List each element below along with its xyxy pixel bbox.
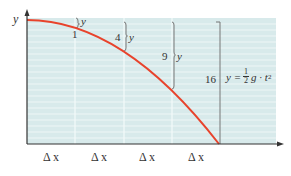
x-interval-3: Δ x — [139, 150, 155, 165]
formula-denominator: 2 — [244, 77, 248, 85]
drop-1-value: 1 — [72, 28, 78, 40]
y-axis-label: y — [13, 12, 18, 27]
formula-fraction: 1 2 — [243, 68, 249, 85]
drop-4-value: 4 — [115, 31, 121, 43]
drop-9-var: y — [177, 50, 182, 62]
x-interval-1: Δ x — [43, 150, 59, 165]
drop-16-value: 16 — [205, 73, 216, 85]
x-interval-2: Δ x — [91, 150, 107, 165]
formula-exponent: 2 — [268, 73, 272, 81]
drop-9-value: 9 — [162, 50, 168, 62]
x-interval-4: Δ x — [188, 150, 204, 165]
formula: y = 1 2 g · t 2 — [226, 68, 271, 85]
formula-rhs: g · t — [251, 71, 268, 83]
drop-4-var: y — [129, 31, 134, 43]
labels-layer: y y 1 y 4 y 9 16 y = 1 2 g · t 2 Δ x Δ x… — [0, 0, 291, 176]
drop-1-var: y — [81, 15, 86, 27]
formula-lhs: y = — [226, 71, 241, 83]
